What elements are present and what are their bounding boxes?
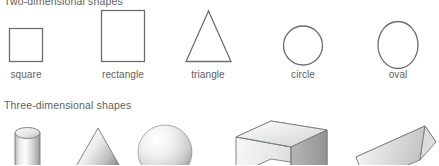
section-heading-three-dimensional: Three-dimensional shapes xyxy=(4,99,131,111)
triangle-outline-icon xyxy=(186,11,231,62)
shape-label-triangle: triangle xyxy=(182,69,234,80)
oval-outline-icon xyxy=(378,22,418,69)
rectangle-outline-icon xyxy=(102,11,145,62)
cone-solid-icon xyxy=(74,128,122,165)
sphere-solid-icon xyxy=(138,125,192,165)
rectangular-prism-solid-icon xyxy=(236,121,327,165)
shapes-figure: Two-dimensional shapes xyxy=(0,0,439,165)
shape-label-square: square xyxy=(0,69,52,80)
circle-outline-icon xyxy=(284,26,323,65)
square-outline-icon xyxy=(10,29,43,62)
shape-label-oval: oval xyxy=(372,69,424,80)
shapes-artwork xyxy=(0,0,439,165)
shape-label-rectangle: rectangle xyxy=(96,69,150,80)
shape-label-circle: circle xyxy=(277,69,329,80)
cylinder-solid-icon xyxy=(15,128,40,166)
triangular-prism-solid-icon xyxy=(356,126,436,165)
